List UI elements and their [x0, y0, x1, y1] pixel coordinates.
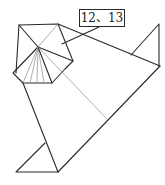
fan-line	[38, 47, 52, 83]
folding-diagram	[0, 0, 165, 185]
left-edge	[23, 83, 58, 172]
diagonal-crease	[19, 25, 38, 47]
top-edge	[58, 24, 160, 66]
step-label: 12、13	[79, 9, 125, 27]
fan-line	[23, 47, 38, 83]
leader-line	[62, 27, 99, 44]
right-edge	[58, 66, 160, 172]
bottom-flap	[16, 143, 58, 172]
fold-line-top	[38, 24, 58, 47]
